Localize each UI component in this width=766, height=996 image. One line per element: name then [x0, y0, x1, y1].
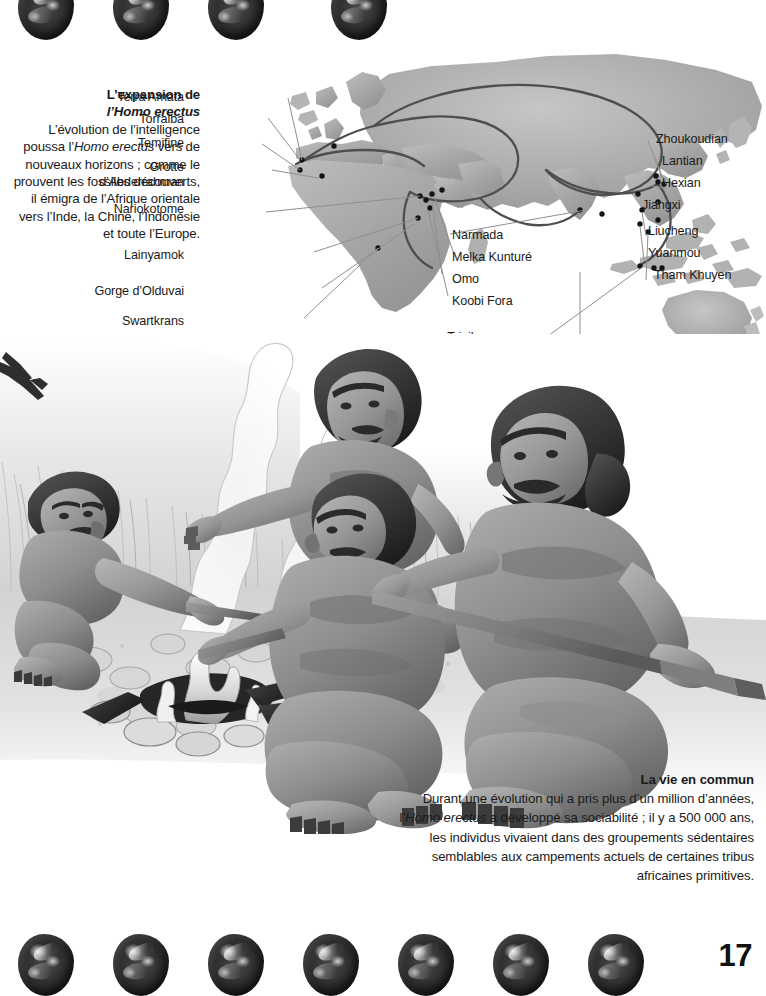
- map-landmasses: [288, 54, 764, 348]
- map-label-hexian: Hexian: [662, 176, 701, 191]
- map-label-melka-kunture: Melka Kunturé: [452, 250, 532, 265]
- flint-stone-icon: [18, 934, 74, 996]
- caption-body-italic: Homo erectus: [405, 810, 486, 825]
- flint-stone-icon: [493, 934, 549, 996]
- migration-map: Terra Amata Torralba Temifine Grotte d’A…: [196, 52, 766, 362]
- map-label-torralba: Torralba: [24, 112, 184, 127]
- flint-stone-icon: [208, 934, 264, 996]
- flint-stone-icon: [208, 0, 264, 40]
- caption-body: Durant une évolution qui a pris plus d’u…: [382, 789, 754, 885]
- map-label-grotte-line2: d’Abderrahman: [99, 175, 184, 189]
- map-label-temifine: Temifine: [24, 136, 184, 151]
- page-number: 17: [719, 938, 752, 974]
- map-label-grotte-abderrahman: Grotte d’Abderrahman: [12, 160, 184, 190]
- flint-stone-icon: [18, 0, 74, 40]
- flint-stone-icon: [113, 0, 169, 40]
- flint-stone-icon: [303, 934, 359, 996]
- map-label-lainyamok: Lainyamok: [12, 248, 184, 263]
- caption-title: La vie en commun: [382, 770, 754, 789]
- map-label-gorge-olduvai: Gorge d’Olduvai: [12, 284, 184, 299]
- bottom-stone-decoration-row: [0, 916, 766, 976]
- map-label-nariokotome: Nariokotome: [12, 202, 184, 217]
- caption-block: La vie en commun Durant une évolution qu…: [382, 770, 754, 885]
- map-label-liucheng: Liucheng: [648, 224, 698, 239]
- map-label-koobi-fora: Koobi Fora: [452, 294, 513, 309]
- flint-stone-icon: [113, 934, 169, 996]
- map-label-tham-khuyen: Tham Khuyen: [654, 268, 731, 283]
- map-label-narmada: Narmada: [452, 228, 503, 243]
- map-label-omo: Omo: [452, 272, 479, 287]
- map-label-swartkrans: Swartkrans: [12, 314, 184, 329]
- flint-stone-icon: [331, 0, 387, 40]
- map-label-terra-amata: Terra Amata: [24, 90, 184, 105]
- map-label-jiangxi: Jiangxi: [642, 198, 681, 213]
- flint-stone-icon: [398, 934, 454, 996]
- map-label-zhoukoudian: Zhoukoudian: [656, 132, 728, 147]
- flint-stone-icon: [588, 934, 644, 996]
- intro-body-part2: vers de nouveaux horizons ; comme le pro…: [14, 139, 200, 241]
- map-label-grotte-line1: Grotte: [150, 160, 184, 174]
- map-label-lantian: Lantian: [662, 154, 703, 169]
- map-label-yuanmou: Yuanmou: [648, 246, 701, 261]
- top-stone-decoration-row: [0, 0, 766, 60]
